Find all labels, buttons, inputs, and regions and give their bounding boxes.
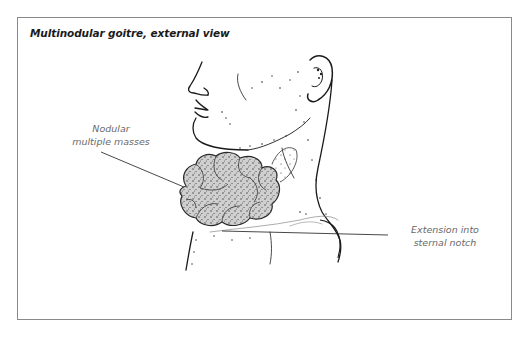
extension-leader-line [222,231,388,235]
sternal-notch-curve [320,220,340,258]
goitre-illustration [0,0,529,339]
extension-label-line2: sternal notch [395,236,495,249]
extension-label-line1: Extension into [395,223,495,236]
nodular-label-line2: multiple masses [56,135,166,148]
goitre-mass [180,152,280,225]
nodular-label-line1: Nodular [56,122,166,135]
nodular-leader-line [101,152,184,187]
sternal-notch-label: Extension into sternal notch [395,223,495,249]
nodular-masses-label: Nodular multiple masses [56,122,166,148]
